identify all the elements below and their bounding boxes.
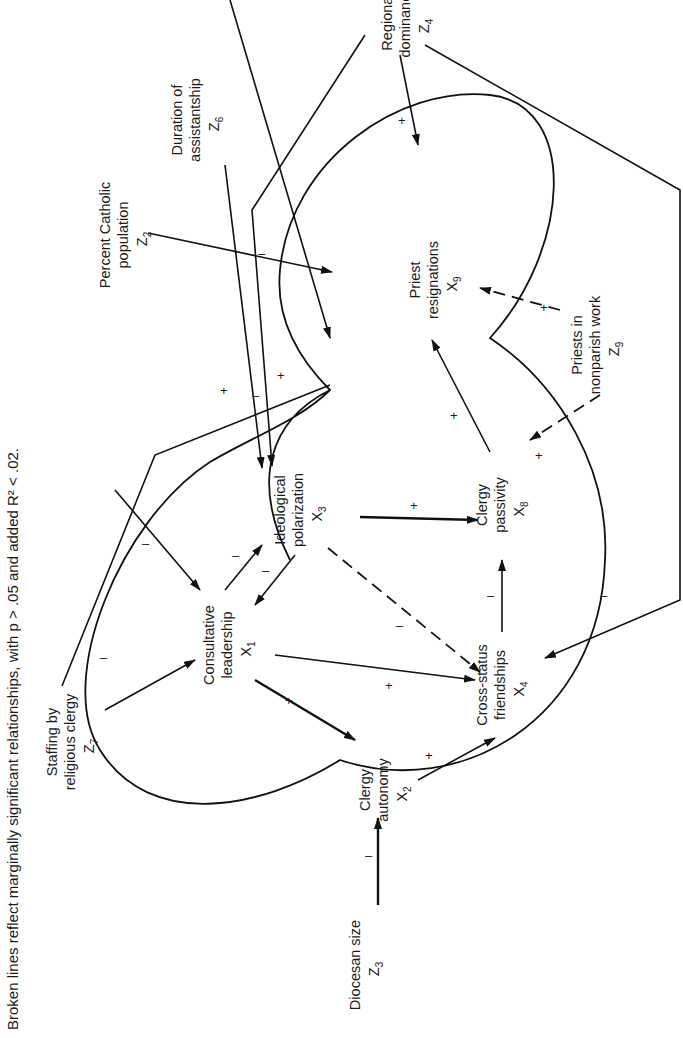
node-x9-line2: resignations [425,241,441,319]
node-z3: Diocesan size Z3 [347,920,385,1010]
node-z6-line1: Duration of [169,84,185,156]
sign-x1-x2: + [285,693,293,708]
node-z2-line1: Percent Catholic [97,182,113,288]
edge-x1-x2 [255,680,355,740]
node-z3-line1: Diocesan size [347,920,363,1010]
node-x2-sym: X2 [394,786,413,802]
sign-z2-x1: – [142,536,150,551]
sign-z2-x9: – [258,246,266,261]
node-x1-sym: X1 [238,641,257,657]
sign-z9-x9: + [540,300,548,315]
node-x3: Ideological polarization X3 [272,473,328,547]
node-z4-line1: Regional [379,0,395,51]
edge-z6-x3 [225,165,262,468]
sign-x4-x8: – [487,588,495,603]
edge-x3-x4 [328,548,480,672]
node-z9-line2: nonparish work [587,295,603,394]
node-x4-sym: X4 [511,681,530,697]
node-z4: Regional dominance Z4 [379,0,435,57]
node-z4-sym: Z4 [416,18,435,33]
node-x9: Priest resignations X9 [407,241,463,319]
sign-x3-x1: – [262,563,270,578]
node-x1-line1: Consultative [201,605,217,685]
node-x4-line1: Cross-status [474,644,490,725]
sign-x1-x3: – [232,548,240,563]
node-z6-sym: Z6 [206,116,225,131]
node-z9: Priests in nonparish work Z9 [569,295,625,394]
node-x4: Cross-status friendships X4 [474,644,530,725]
sign-z3-x2: – [365,848,373,863]
sign-z4-x3: + [277,368,285,383]
edge-x1-x3 [225,545,262,590]
sign-z7-x9: + [220,383,228,398]
sign-z6-x3: – [252,388,260,403]
node-z2-line2: population [115,202,131,269]
sign-x1-x4: + [385,678,393,693]
sign-z4-x4: – [600,588,608,603]
edge-x3-x1 [255,555,295,605]
node-z9-line1: Priests in [569,315,585,375]
edge-z4-x3 [252,35,365,466]
node-x3-line1: Ideological [272,475,288,544]
node-x8-line2: passivity [492,476,508,532]
node-z4-line2: dominance [397,0,413,57]
node-x1-line2: leadership [219,612,235,679]
node-x3-sym: X3 [309,506,328,522]
sign-x2-x4: + [425,748,433,763]
boundary-outline [85,94,605,804]
node-z3-sym: Z3 [366,961,385,976]
node-x2-line2: autonomy [375,757,391,821]
node-z6-line2: assistantship [187,78,203,162]
edge-z4-x4 [425,45,680,658]
node-x8-sym: X8 [511,501,530,517]
node-z9-sym: Z9 [606,341,625,356]
edge-z4-x9 [400,55,418,145]
node-x4-line2: friendships [492,650,508,720]
caption: Broken lines reflect marginally signific… [4,448,21,1030]
sign-x3-x4: – [396,618,404,633]
sign-x8-x9: + [450,408,458,423]
edge-z2-x1 [115,490,200,590]
node-x8: Clergy passivity X8 [474,476,530,532]
edge-x1-x4 [275,655,475,680]
node-x9-line1: Priest [407,261,423,298]
edge-z9-x8 [530,395,600,440]
node-x2-line1: Clergy [357,768,373,811]
node-z6: Duration of assistantship Z6 [169,78,225,162]
sign-z9-x8: + [535,448,543,463]
node-z7-line1: Staffing by [44,707,60,776]
node-x1: Consultative leadership X1 [201,605,257,685]
edge-x8-x9 [432,340,490,452]
node-x9-sym: X9 [444,276,463,292]
node-z7-line2: religious clergy [62,693,78,790]
path-diagram: Broken lines reflect marginally signific… [0,0,683,1038]
node-x3-line2: polarization [290,473,306,547]
node-z2: Percent Catholic population Z2 [97,182,153,288]
edge-z7-x1 [105,660,195,710]
node-z2-sym: Z2 [134,231,153,246]
node-z7: Staffing by religious clergy Z7 [44,693,100,790]
sign-x3-x8: + [410,498,418,513]
node-x8-line1: Clergy [474,483,490,526]
edge-z9-x9 [480,288,560,310]
sign-z7-x1: – [100,650,108,665]
sign-z4-x9: + [398,113,406,128]
edge-x3-x8 [360,517,478,520]
